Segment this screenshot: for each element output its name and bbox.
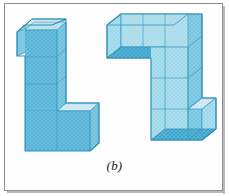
column-side-texture: [57, 22, 66, 111]
column-front-texture: [151, 47, 188, 140]
column-side-texture: [188, 14, 202, 140]
left-solid-column-side: [57, 22, 66, 111]
right-solid-arm-front: [121, 14, 188, 47]
right-solid-column-front: [151, 47, 188, 140]
right-solid-column-side: [188, 14, 202, 140]
right-solid: [107, 14, 216, 140]
left-solid: [17, 19, 99, 151]
arm-front-texture: [121, 14, 188, 47]
figure-caption: (b): [0, 158, 229, 174]
figure-panel: (b): [0, 0, 229, 196]
frame-shadow-bottom: [7, 191, 225, 193]
rear-cube-left-face: [17, 28, 26, 56]
